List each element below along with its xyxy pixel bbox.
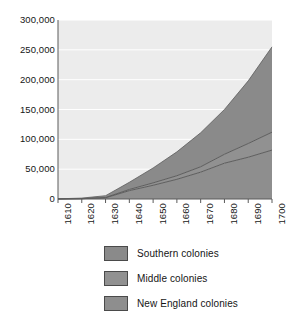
plot-area-wrapper: 050,000100,000150,000200,000250,000300,0… xyxy=(0,0,293,240)
legend-item-label: New England colonies xyxy=(137,298,238,309)
y-tick-label-150000: 150,000 xyxy=(1,105,55,115)
x-axis-tick-labels: 1610162016301640165016601670168016901700 xyxy=(0,203,293,243)
x-tick-label-1610: 1610 xyxy=(63,203,73,225)
x-tick-label-1650: 1650 xyxy=(158,203,168,225)
y-tick-label-300000: 300,000 xyxy=(1,15,55,25)
x-tick-label-1620: 1620 xyxy=(86,203,96,225)
x-tick-label-1700: 1700 xyxy=(277,203,287,225)
legend-item[interactable]: Southern colonies xyxy=(104,244,293,263)
legend-swatch-icon xyxy=(104,246,128,261)
x-tick-label-1670: 1670 xyxy=(205,203,215,225)
y-tick-label-200000: 200,000 xyxy=(1,75,55,85)
x-tick-label-1680: 1680 xyxy=(229,203,239,225)
y-tick-label-50000: 50,000 xyxy=(1,164,55,174)
legend-item-label: Middle colonies xyxy=(137,273,207,284)
legend-swatch-icon xyxy=(104,271,128,286)
legend-item-label: Southern colonies xyxy=(137,248,219,259)
x-tick-label-1690: 1690 xyxy=(253,203,263,225)
legend-item[interactable]: New England colonies xyxy=(104,294,293,313)
x-tick-label-1640: 1640 xyxy=(134,203,144,225)
chart-legend: Southern coloniesMiddle coloniesNew Engl… xyxy=(104,244,293,319)
legend-item[interactable]: Middle colonies xyxy=(104,269,293,288)
x-tick-label-1630: 1630 xyxy=(110,203,120,225)
y-tick-label-100000: 100,000 xyxy=(1,134,55,144)
stacked-area-chart-figure: 050,000100,000150,000200,000250,000300,0… xyxy=(0,0,293,321)
legend-swatch-icon xyxy=(104,296,128,311)
y-tick-label-250000: 250,000 xyxy=(1,45,55,55)
x-tick-label-1660: 1660 xyxy=(181,203,191,225)
